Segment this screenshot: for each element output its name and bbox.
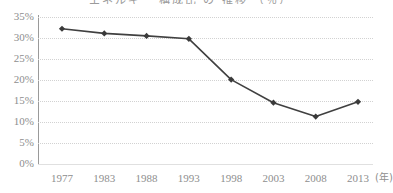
y-tick-label: 5% — [0, 137, 34, 148]
data-point-marker — [270, 100, 276, 106]
x-tick-label: 1988 — [136, 172, 158, 184]
x-tick-label: 1993 — [178, 172, 200, 184]
y-tick-label: 35% — [0, 11, 34, 22]
y-tick-label: 10% — [0, 116, 34, 127]
y-tick-label: 20% — [0, 74, 34, 85]
y-tick-label: 25% — [0, 53, 34, 64]
plot-area — [38, 17, 373, 164]
y-tick-label: 15% — [0, 95, 34, 106]
gridline-0 — [38, 164, 373, 165]
data-point-marker — [101, 30, 107, 36]
y-tick-label: 30% — [0, 32, 34, 43]
x-tick-label: 2013 — [347, 172, 369, 184]
series-line — [62, 29, 358, 117]
x-tick-label: 1977 — [51, 172, 73, 184]
y-axis-tick-labels: 35%30%25%20%15%10%5%0% — [0, 17, 34, 164]
chart-title: エネルギー 構成比 の 推移 （％） — [0, 0, 381, 4]
data-series — [38, 17, 373, 164]
data-point-marker — [59, 26, 65, 32]
data-point-marker — [355, 99, 361, 105]
series-markers — [59, 26, 361, 120]
x-axis-unit-label: (年) — [375, 172, 393, 184]
x-tick-label: 1998 — [220, 172, 242, 184]
x-tick-label: 2003 — [262, 172, 284, 184]
x-axis-tick-labels: 19771983198819931998200320082013(年) — [38, 172, 381, 188]
x-tick-label: 2008 — [305, 172, 327, 184]
data-point-marker — [313, 113, 319, 119]
x-tick-label: 1983 — [93, 172, 115, 184]
data-point-marker — [143, 33, 149, 39]
y-tick-label: 0% — [0, 158, 34, 169]
